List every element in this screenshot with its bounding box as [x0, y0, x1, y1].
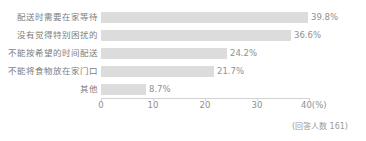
bar-row: 配送时需要在家等待 39.8%	[0, 8, 366, 26]
x-axis-tick-label: 0	[98, 100, 103, 110]
bar-value-label: 8.7%	[149, 80, 171, 98]
bar-segment	[101, 84, 146, 95]
bar-row: 不能按希望的时间配送 24.2%	[0, 44, 366, 62]
x-axis-tick-label: 10	[148, 100, 159, 110]
horizontal-bar-chart: 配送时需要在家等待 39.8% 没有觉得特别困扰的 36.6% 不能按希望的时间…	[0, 0, 366, 141]
bar-value-label: 36.6%	[294, 26, 321, 44]
x-axis-tick-label: 20	[200, 100, 211, 110]
bar-segment	[101, 48, 227, 59]
bar-row: 不能将食物放在家门口 21.7%	[0, 62, 366, 80]
bar-segment	[101, 12, 308, 23]
x-axis-tick-label: 30	[252, 100, 263, 110]
respondents-note: (回答人数 161)	[292, 120, 348, 131]
bar-row: 没有觉得特别困扰的 36.6%	[0, 26, 366, 44]
bar-segment	[101, 30, 291, 41]
category-label: 配送时需要在家等待	[17, 8, 98, 26]
category-label: 没有觉得特别困扰的	[17, 26, 98, 44]
bar-value-label: 39.8%	[311, 8, 338, 26]
category-label: 其他	[80, 80, 98, 98]
category-label: 不能按希望的时间配送	[8, 44, 98, 62]
x-axis-unit-label: 40(%)	[301, 100, 327, 110]
category-label: 不能将食物放在家门口	[8, 62, 98, 80]
bar-segment	[101, 66, 214, 77]
bar-value-label: 24.2%	[230, 44, 257, 62]
bar-row: 其他 8.7%	[0, 80, 366, 98]
bar-value-label: 21.7%	[217, 62, 244, 80]
